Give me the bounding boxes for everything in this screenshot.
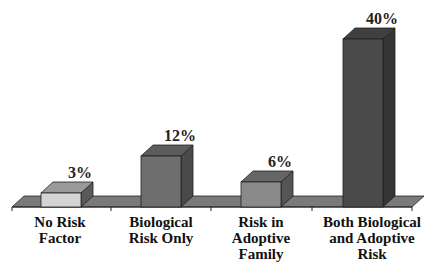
- category-label-both-risk: Both Biological and Adoptive Risk: [308, 214, 436, 262]
- value-label-no-risk-factor: 3%: [55, 164, 105, 182]
- category-label-risk-in-adoptive-family: Risk in Adoptive Family: [218, 214, 304, 262]
- bar-risk-in-adoptive-family: [241, 171, 293, 207]
- bar-biological-risk-only: [141, 145, 193, 207]
- category-label-biological-risk-only: Biological Risk Only: [116, 214, 206, 246]
- bar-no-risk-factor: [41, 182, 93, 207]
- x-axis-ticks: [12, 207, 412, 211]
- value-label-biological-risk-only: 12%: [155, 127, 205, 145]
- value-label-both-risk: 40%: [357, 10, 407, 28]
- bar-both-biological-and-adoptive-risk: [343, 28, 395, 207]
- value-label-risk-in-adoptive-family: 6%: [255, 153, 305, 171]
- category-label-no-risk-factor: No Risk Factor: [20, 214, 100, 246]
